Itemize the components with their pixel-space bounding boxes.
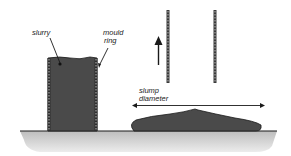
raised-ring <box>167 10 217 83</box>
mould-ring-label-line2: ring <box>104 37 117 45</box>
slump-pile <box>131 109 261 131</box>
slump-test-diagram <box>0 0 291 156</box>
lift-up-arrow-icon <box>155 36 163 65</box>
ground-surface <box>20 131 277 152</box>
mould-ring-filled <box>48 57 98 131</box>
slump-diameter-label-line2: diameter <box>139 95 168 103</box>
slurry-label: slurry <box>32 29 50 37</box>
slump-diameter-arrow <box>132 103 265 108</box>
mould-ring-leader <box>99 48 108 66</box>
